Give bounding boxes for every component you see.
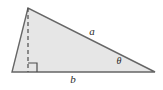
triangle-diagram-canvas: a b θ xyxy=(0,0,163,90)
label-angle-theta: θ xyxy=(117,55,122,66)
geometry-figure: a b θ xyxy=(0,0,163,90)
label-side-a: a xyxy=(89,25,95,37)
label-side-b: b xyxy=(70,73,76,85)
